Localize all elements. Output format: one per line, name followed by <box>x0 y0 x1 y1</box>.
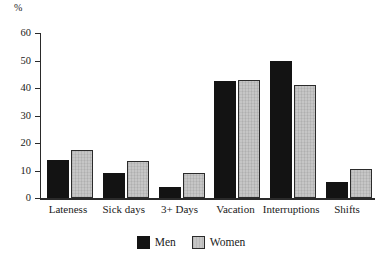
legend-swatch-men <box>137 236 150 249</box>
legend-item: Men <box>137 236 176 249</box>
x-axis-category-label: Shifts <box>307 203 382 216</box>
bar-men <box>159 187 181 198</box>
x-axis-line <box>40 198 375 200</box>
bar-women <box>294 85 316 198</box>
bar-group <box>103 33 149 198</box>
bar-men <box>214 81 236 198</box>
bar-chart: % 0102030405060 LatenessSick days3+ Days… <box>0 0 382 264</box>
bar-women <box>238 80 260 198</box>
chart-legend: MenWomen <box>0 236 382 249</box>
y-axis-tick-label: 40 <box>5 83 31 93</box>
bar-women <box>350 169 372 198</box>
y-axis-tick-label: 10 <box>5 166 31 176</box>
legend-label: Women <box>210 236 245 249</box>
bar-group <box>270 33 316 198</box>
bar-women <box>127 161 149 198</box>
legend-swatch-women <box>192 236 205 249</box>
y-axis-tick-label: 30 <box>5 111 31 121</box>
bar-group <box>326 33 372 198</box>
bar-group <box>159 33 205 198</box>
y-axis-tick-label: 60 <box>5 28 31 38</box>
bar-women <box>183 173 205 198</box>
bar-group <box>214 33 260 198</box>
y-axis-tick-label: 0 <box>5 193 31 203</box>
y-axis-tick-label: 50 <box>5 56 31 66</box>
y-axis-unit-label: % <box>14 2 22 13</box>
legend-label: Men <box>155 236 176 249</box>
bar-group <box>47 33 93 198</box>
legend-item: Women <box>192 236 245 249</box>
bar-men <box>103 173 125 198</box>
y-axis-tick-label: 20 <box>5 138 31 148</box>
bar-men <box>326 182 348 199</box>
bar-women <box>71 150 93 198</box>
bar-men <box>47 160 69 199</box>
plot-area <box>40 33 375 198</box>
bar-men <box>270 61 292 199</box>
